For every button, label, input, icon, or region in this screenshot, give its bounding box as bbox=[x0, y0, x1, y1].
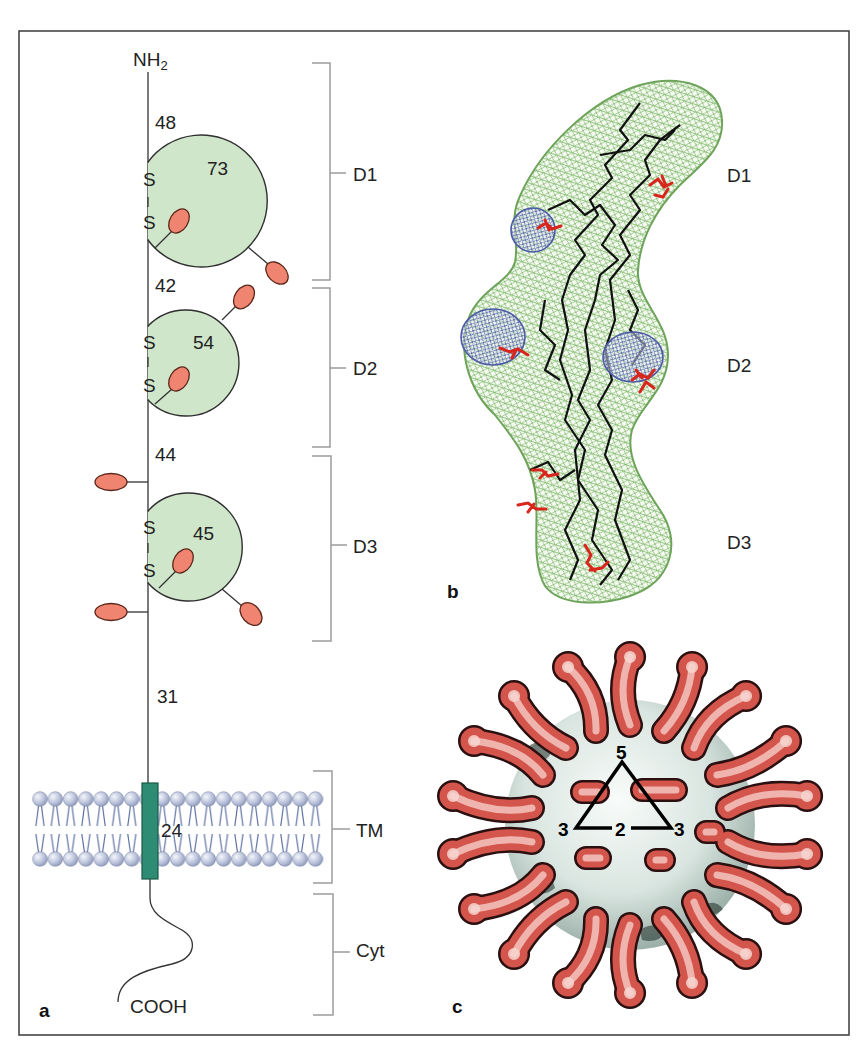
transmembrane-segment bbox=[142, 783, 158, 879]
disulfide-atom: S bbox=[143, 332, 156, 353]
residue-count-stalk: 31 bbox=[157, 686, 178, 707]
three-fold-axis-label-left: 3 bbox=[558, 819, 569, 840]
residue-count-linker-2: 42 bbox=[155, 275, 176, 296]
domain-loop-d1 bbox=[148, 135, 267, 267]
five-fold-axis-label: 5 bbox=[616, 742, 627, 763]
region-label-tm: TM bbox=[356, 820, 383, 841]
disulfide-atom: S bbox=[143, 375, 156, 396]
panel-label-a: a bbox=[39, 1000, 50, 1021]
region-label-cyt: Cyt bbox=[356, 940, 385, 961]
residue-count-d3: 45 bbox=[193, 523, 214, 544]
region-label-d1: D1 bbox=[353, 164, 377, 185]
domain-label-d1: D1 bbox=[727, 165, 751, 186]
region-label-d3: D3 bbox=[353, 536, 377, 557]
two-fold-axis-label: 2 bbox=[615, 819, 626, 840]
residue-count-d2: 54 bbox=[193, 332, 215, 353]
residue-count-d1: 73 bbox=[207, 158, 228, 179]
panel-label-c: c bbox=[452, 996, 463, 1017]
region-label-d2: D2 bbox=[353, 358, 377, 379]
disulfide-atom: S bbox=[143, 169, 156, 190]
ligand-density-d2-right bbox=[603, 332, 663, 382]
disulfide-atom: S bbox=[143, 560, 156, 581]
residue-count-tm: 24 bbox=[161, 820, 183, 841]
domain-label-d3: D3 bbox=[727, 532, 751, 553]
disulfide-atom: S bbox=[143, 212, 156, 233]
panel-label-b: b bbox=[447, 581, 459, 602]
residue-count-linker-1: 48 bbox=[155, 112, 176, 133]
disulfide-bonds: S S S S S S bbox=[143, 169, 156, 581]
c-terminus-label: COOH bbox=[130, 996, 187, 1017]
figure-canvas: D1 D2 D3 TM Cyt S S S S S S bbox=[0, 0, 866, 1061]
glycan-icon bbox=[95, 604, 127, 621]
ligand-density-d2-left bbox=[461, 309, 525, 365]
residue-count-linker-3: 44 bbox=[155, 444, 177, 465]
domain-label-d2: D2 bbox=[727, 355, 751, 376]
disulfide-atom: S bbox=[143, 517, 156, 538]
glycan-icon bbox=[95, 474, 127, 491]
three-fold-axis-label-right: 3 bbox=[674, 819, 685, 840]
